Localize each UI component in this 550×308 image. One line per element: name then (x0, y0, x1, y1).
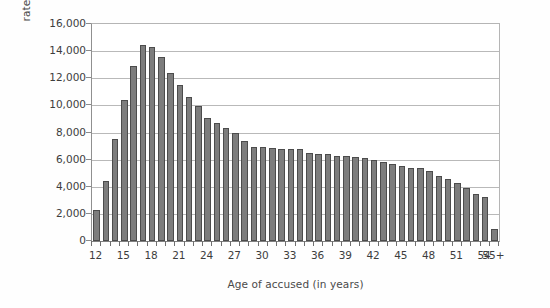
bar (241, 141, 248, 241)
bar-chart: rate per 100,000 population 16,00014,000… (0, 0, 550, 308)
x-axis-tick (285, 241, 286, 246)
bar (130, 66, 137, 241)
bar (269, 148, 276, 241)
bar (149, 47, 156, 241)
bar (186, 97, 193, 241)
x-axis-tick (452, 241, 453, 246)
x-axis-tick (165, 241, 166, 246)
x-axis-title: Age of accused (in years) (91, 278, 500, 290)
y-axis-tick-label: 10,000 (38, 97, 86, 111)
bar (121, 100, 128, 241)
y-axis-tick-label: 12,000 (38, 70, 86, 84)
bar (251, 147, 258, 241)
x-axis-tick (258, 241, 259, 246)
x-axis-tick-label: 51 (450, 248, 463, 262)
bar (334, 156, 341, 241)
y-axis-tick-label: 2,000 (38, 206, 86, 220)
x-axis-tick-label: 12 (89, 248, 102, 262)
x-axis-tick (211, 241, 212, 246)
x-axis-ticks (91, 241, 500, 246)
x-axis-tick-label: 30 (255, 248, 268, 262)
bar (362, 158, 369, 241)
x-axis-tick (248, 241, 249, 246)
y-axis-tick-label: 6,000 (38, 152, 86, 166)
plot-area (91, 23, 500, 242)
x-axis-tick (470, 241, 471, 246)
bar (306, 153, 313, 241)
bar (204, 118, 211, 241)
x-axis-tick-label: 27 (228, 248, 241, 262)
x-axis-tick (489, 241, 490, 246)
x-axis-tick (498, 241, 499, 246)
x-axis-tick (322, 241, 323, 246)
bar (482, 197, 489, 241)
x-axis-tick (313, 241, 314, 246)
x-axis-tick-label: 39 (339, 248, 352, 262)
bar (158, 57, 165, 241)
x-axis-tick (295, 241, 296, 246)
bar (325, 154, 332, 241)
x-axis-tick (341, 241, 342, 246)
x-axis-tick-label: 55+ (482, 248, 504, 262)
x-axis-tick-label: 45 (394, 248, 407, 262)
x-axis-tick-label: 36 (311, 248, 324, 262)
x-axis-tick (443, 241, 444, 246)
x-axis-tick (128, 241, 129, 246)
bar (195, 106, 202, 241)
bar (399, 166, 406, 241)
bars-layer (92, 24, 499, 241)
y-axis-tick-label: 4,000 (38, 179, 86, 193)
bar (408, 168, 415, 241)
bar (288, 149, 295, 241)
bar (297, 149, 304, 241)
bar (223, 128, 230, 241)
x-axis-tick (480, 241, 481, 246)
x-axis-tick (174, 241, 175, 246)
x-axis-tick-label: 21 (172, 248, 185, 262)
x-axis-tick (119, 241, 120, 246)
bar (343, 156, 350, 241)
x-axis-tick-label: 15 (117, 248, 130, 262)
y-axis-tick-label: 14,000 (38, 43, 86, 57)
bar (112, 139, 119, 241)
x-axis-tick-label: 33 (283, 248, 296, 262)
bar (389, 164, 396, 241)
x-axis-tick-labels: 12151821242730333639424548515455+ (91, 248, 500, 264)
bar (426, 171, 433, 241)
x-axis-tick (156, 241, 157, 246)
x-axis-tick (276, 241, 277, 246)
bar (278, 149, 285, 241)
x-axis-tick (461, 241, 462, 246)
bar (380, 162, 387, 241)
bar (167, 73, 174, 241)
bar (315, 154, 322, 241)
x-axis-tick (350, 241, 351, 246)
x-axis-tick (424, 241, 425, 246)
x-axis-tick (267, 241, 268, 246)
x-axis-tick (100, 241, 101, 246)
x-axis-tick-label: 42 (366, 248, 379, 262)
y-axis-tick-labels: 16,00014,00012,00010,0008,0006,0004,0002… (38, 16, 86, 248)
x-axis-tick (239, 241, 240, 246)
x-axis-tick (378, 241, 379, 246)
bar (260, 147, 267, 241)
x-axis-tick (369, 241, 370, 246)
x-axis-tick (433, 241, 434, 246)
x-axis-tick (230, 241, 231, 246)
x-axis-tick (415, 241, 416, 246)
x-axis-tick (359, 241, 360, 246)
bar (103, 181, 110, 241)
x-axis-tick (137, 241, 138, 246)
bar (93, 210, 100, 241)
y-axis-tick-label: 0 (38, 233, 86, 247)
x-axis-tick (184, 241, 185, 246)
x-axis-tick (110, 241, 111, 246)
x-axis-tick (221, 241, 222, 246)
bar (140, 45, 147, 241)
x-axis-tick (396, 241, 397, 246)
y-axis-title: rate per 100,000 population (18, 0, 34, 55)
bar (445, 179, 452, 241)
bar (491, 229, 498, 241)
bar (436, 176, 443, 241)
x-axis-tick-label: 24 (200, 248, 213, 262)
